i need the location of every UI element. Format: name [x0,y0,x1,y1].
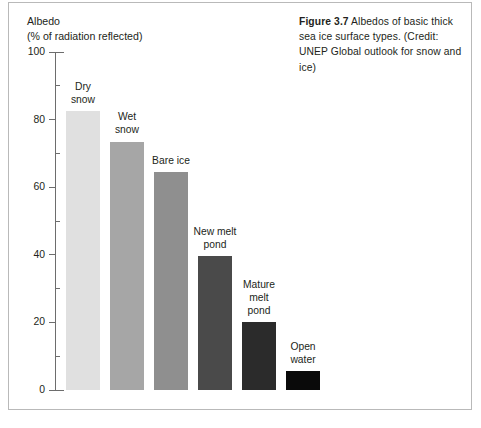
y-axis-top-stub [55,52,64,53]
y-tick-major [49,254,56,255]
bar-label: Mature melt pond [224,278,294,318]
y-tick-label: 0 [1,385,45,395]
y-tick-label: 100 [1,47,45,57]
y-tick-minor [55,288,60,289]
y-tick-minor [55,153,60,154]
bar-label: New melt pond [180,225,250,251]
y-tick-major [49,187,56,188]
y-tick-major [49,322,56,323]
bar-label: Dry snow [48,80,118,106]
bar-label: Bare ice [136,154,206,167]
bar [198,256,232,390]
y-tick-label: 40 [1,250,45,260]
y-tick-label-wrap: 80 [0,115,45,125]
y-tick-label: 60 [1,182,45,192]
bar [154,172,188,390]
y-tick-label-wrap: 40 [0,250,45,260]
y-tick-minor [55,356,60,357]
y-tick-minor [55,221,60,222]
y-tick-major [49,119,56,120]
y-tick-label: 80 [1,115,45,125]
bar [286,371,320,390]
y-tick-major [49,390,56,391]
y-tick-label-wrap: 0 [0,385,45,395]
figure-container: Figure 3.7 Albedos of basic thick sea ic… [0,0,481,428]
bar [110,142,144,390]
plot-area: 020406080100 Dry snowWet snowBare iceNew… [0,0,481,428]
y-axis-baseline-stub [55,390,64,391]
y-tick-label-wrap: 60 [0,182,45,192]
y-tick-major [49,52,56,53]
y-tick-label-wrap: 100 [0,47,45,57]
bar-label: Open water [268,340,338,366]
bar-label: Wet snow [92,110,162,136]
y-tick-label: 20 [1,317,45,327]
bar [66,111,100,390]
y-tick-label-wrap: 20 [0,317,45,327]
